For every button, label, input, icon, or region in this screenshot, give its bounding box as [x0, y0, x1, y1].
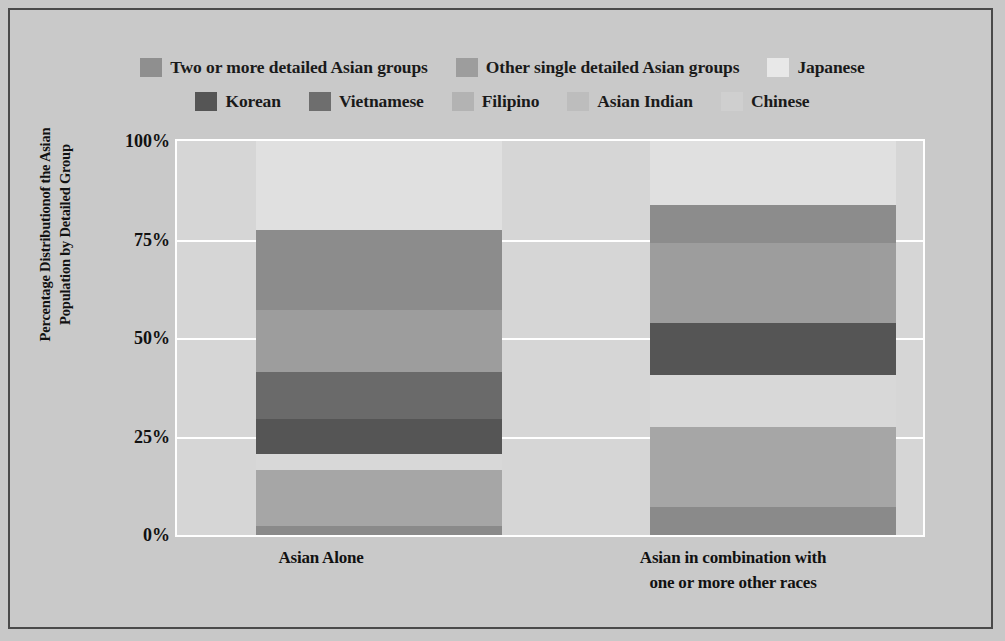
- x-axis-category-asian-in-combination: Asian in combination withone or more oth…: [588, 546, 878, 595]
- legend-swatch-icon: [767, 58, 789, 77]
- stacked-bar-asian-in-combination[interactable]: [650, 141, 896, 535]
- legend-swatch-icon: [452, 92, 474, 111]
- legend-item[interactable]: Vietnamese: [309, 91, 424, 112]
- plot-area: [175, 139, 925, 537]
- y-axis-tick-labels: 100%75%50%25%0%: [98, 139, 170, 537]
- bar-segment[interactable]: [650, 205, 896, 243]
- legend-swatch-icon: [456, 58, 478, 77]
- legend-swatch-icon: [567, 92, 589, 111]
- y-axis-tick-75: 75%: [134, 229, 170, 250]
- legend-item[interactable]: Chinese: [721, 91, 810, 112]
- bar-segment[interactable]: [650, 507, 896, 535]
- x-category-line1: Asian in combination with: [588, 546, 878, 571]
- y-axis-title-line2: Population by Detailed Group: [56, 85, 76, 385]
- x-category-line2: one or more other races: [588, 571, 878, 596]
- legend-row-2: KoreanVietnameseFilipinoAsian IndianChin…: [10, 84, 995, 118]
- legend-swatch-icon: [140, 58, 162, 77]
- y-axis-tick-25: 25%: [134, 426, 170, 447]
- bar-segment[interactable]: [650, 141, 896, 205]
- legend-item-label: Vietnamese: [339, 91, 424, 112]
- y-axis-tick-100: 100%: [125, 131, 170, 152]
- legend-item[interactable]: Japanese: [767, 57, 864, 78]
- bar-segment[interactable]: [650, 427, 896, 507]
- chart-legend: Two or more detailed Asian groupsOther s…: [10, 50, 995, 118]
- bar-segment[interactable]: [256, 141, 502, 230]
- bar-segment[interactable]: [256, 230, 502, 310]
- y-axis-tick-50: 50%: [134, 328, 170, 349]
- legend-swatch-icon: [309, 92, 331, 111]
- bar-segment[interactable]: [650, 323, 896, 375]
- chart-figure: Two or more detailed Asian groupsOther s…: [8, 8, 993, 629]
- legend-item-label: Asian Indian: [597, 91, 693, 112]
- legend-item[interactable]: Filipino: [452, 91, 540, 112]
- legend-item[interactable]: Two or more detailed Asian groups: [140, 57, 427, 78]
- legend-row-1: Two or more detailed Asian groupsOther s…: [10, 50, 995, 84]
- legend-item-label: Two or more detailed Asian groups: [170, 57, 427, 78]
- y-axis-title: Percentage Distributionof the Asian Popu…: [36, 85, 75, 385]
- bar-segment[interactable]: [650, 243, 896, 323]
- legend-item[interactable]: Other single detailed Asian groups: [456, 57, 740, 78]
- bar-segment[interactable]: [256, 526, 502, 535]
- legend-item-label: Japanese: [797, 57, 864, 78]
- y-axis-title-line1: Percentage Distributionof the Asian: [36, 85, 56, 385]
- legend-item-label: Korean: [225, 91, 280, 112]
- y-axis-tick-0: 0%: [143, 525, 170, 546]
- legend-item[interactable]: Asian Indian: [567, 91, 693, 112]
- bar-segment[interactable]: [256, 372, 502, 419]
- x-axis-category-asian-alone: Asian Alone: [196, 546, 446, 571]
- bar-segment[interactable]: [256, 470, 502, 526]
- legend-swatch-icon: [721, 92, 743, 111]
- legend-item[interactable]: Korean: [195, 91, 280, 112]
- legend-item-label: Filipino: [482, 91, 540, 112]
- bar-segment[interactable]: [650, 375, 896, 427]
- x-category-line1: Asian Alone: [196, 546, 446, 571]
- legend-item-label: Other single detailed Asian groups: [486, 57, 740, 78]
- legend-item-label: Chinese: [751, 91, 810, 112]
- stacked-bar-asian-alone[interactable]: [256, 141, 502, 535]
- bar-segment[interactable]: [256, 454, 502, 470]
- legend-swatch-icon: [195, 92, 217, 111]
- bar-segment[interactable]: [256, 310, 502, 371]
- bar-segment[interactable]: [256, 419, 502, 454]
